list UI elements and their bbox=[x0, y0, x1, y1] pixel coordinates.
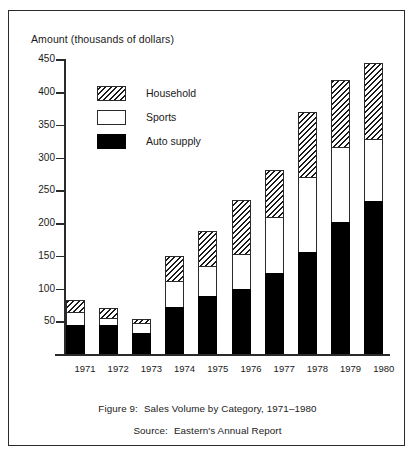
bar-segment-sports bbox=[298, 177, 317, 252]
bar-segment-sports bbox=[265, 217, 284, 273]
bar-segment-auto-supply bbox=[232, 289, 251, 355]
legend-swatch-sports-icon bbox=[97, 110, 126, 125]
bar-segment-auto-supply bbox=[198, 296, 217, 354]
bar-segment-auto-supply bbox=[66, 325, 85, 354]
bar-segment-household bbox=[198, 231, 217, 266]
bar-segment-sports bbox=[66, 312, 85, 325]
bar-segment-auto-supply bbox=[265, 273, 284, 354]
bar-segment-household bbox=[364, 63, 383, 140]
bar-1971 bbox=[66, 300, 85, 354]
bar-1976 bbox=[232, 200, 251, 354]
legend-item-household: Household bbox=[97, 81, 201, 105]
legend-label-household: Household bbox=[146, 87, 196, 99]
figure-caption-text: Sales Volume by Category, 1971–1980 bbox=[144, 403, 317, 414]
bar-segment-household bbox=[165, 256, 184, 282]
bar-segment-sports bbox=[331, 147, 350, 222]
legend-swatch-household-icon bbox=[97, 86, 126, 101]
bar-1979 bbox=[331, 80, 350, 354]
figure-frame: Amount (thousands of dollars) 5010015020… bbox=[8, 10, 405, 446]
bar-group bbox=[9, 11, 406, 447]
bar-segment-household bbox=[99, 308, 118, 318]
bar-segment-auto-supply bbox=[331, 222, 350, 354]
source-caption-label: Source: bbox=[133, 425, 167, 436]
bar-segment-household bbox=[232, 200, 251, 254]
source-caption-text: Eastern's Annual Report bbox=[174, 425, 282, 436]
bar-segment-sports bbox=[165, 281, 184, 307]
legend-item-auto-supply: Auto supply bbox=[97, 129, 201, 153]
bar-segment-household bbox=[66, 300, 85, 312]
bar-segment-auto-supply bbox=[132, 333, 151, 354]
source-caption: Source:Eastern's Annual Report bbox=[9, 425, 406, 436]
bar-segment-household bbox=[331, 80, 350, 147]
legend: Household Sports Auto supply bbox=[97, 81, 201, 153]
bar-1977 bbox=[265, 170, 284, 354]
legend-item-sports: Sports bbox=[97, 105, 201, 129]
bar-segment-sports bbox=[198, 266, 217, 296]
bar-1975 bbox=[198, 231, 217, 354]
legend-label-sports: Sports bbox=[146, 111, 176, 123]
bar-segment-sports bbox=[132, 323, 151, 333]
legend-swatch-auto-supply-icon bbox=[97, 134, 126, 149]
bar-segment-sports bbox=[364, 139, 383, 201]
bar-1973 bbox=[132, 319, 151, 354]
bar-1972 bbox=[99, 308, 118, 354]
bar-1974 bbox=[165, 256, 184, 354]
bar-segment-sports bbox=[99, 318, 118, 325]
figure-caption: Figure 9:Sales Volume by Category, 1971–… bbox=[9, 403, 406, 414]
bar-segment-auto-supply bbox=[298, 252, 317, 354]
bar-segment-auto-supply bbox=[99, 325, 118, 354]
bar-segment-auto-supply bbox=[364, 201, 383, 354]
figure-caption-label: Figure 9: bbox=[98, 403, 138, 414]
bar-segment-auto-supply bbox=[165, 307, 184, 354]
plot-area: 50100150200250300350400450 1971197219731… bbox=[9, 11, 406, 447]
bar-segment-household bbox=[298, 112, 317, 178]
bar-segment-household bbox=[265, 170, 284, 217]
bar-1980 bbox=[364, 63, 383, 354]
bar-segment-sports bbox=[232, 254, 251, 289]
x-axis-tick-label-1980: 1980 bbox=[364, 363, 404, 374]
bar-1978 bbox=[298, 112, 317, 354]
legend-label-auto-supply: Auto supply bbox=[146, 135, 201, 147]
